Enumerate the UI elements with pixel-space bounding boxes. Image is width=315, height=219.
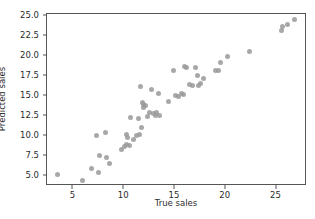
data-point: [157, 113, 162, 118]
y-axis-tick-mark: [43, 35, 47, 36]
x-axis-tick-mark: [72, 185, 73, 189]
data-points-layer: [47, 14, 305, 184]
x-axis-tick-mark: [123, 185, 124, 189]
data-point: [143, 103, 148, 108]
data-point: [193, 65, 198, 70]
y-axis-label: Predicted sales: [0, 67, 7, 131]
data-point: [198, 81, 203, 86]
data-point: [94, 133, 99, 138]
data-point: [201, 76, 206, 81]
y-axis-tick-label: 22.5: [0, 30, 39, 40]
data-point: [292, 17, 297, 22]
data-point: [107, 161, 112, 166]
x-axis-tick-mark: [173, 185, 174, 189]
data-point: [156, 91, 161, 96]
data-point: [103, 130, 108, 135]
data-point: [80, 178, 85, 183]
x-axis-tick-mark: [275, 185, 276, 189]
y-axis-tick-mark: [43, 175, 47, 176]
plot-area: [46, 13, 306, 185]
data-point: [285, 22, 290, 27]
data-point: [190, 83, 195, 88]
x-axis-label: True sales: [155, 198, 197, 208]
data-point: [136, 116, 141, 121]
y-axis-tick-label: 25.0: [0, 10, 39, 20]
x-axis-tick-label: 5: [70, 190, 75, 200]
x-axis-tick-mark: [224, 185, 225, 189]
data-point: [137, 132, 142, 137]
x-axis-tick-label: 10: [118, 190, 129, 200]
data-point: [139, 125, 144, 130]
scatter-plot-figure: 5.07.510.012.515.017.520.022.525.0 51015…: [0, 0, 315, 219]
y-axis-tick-label: 7.5: [0, 150, 39, 160]
x-axis-tick-label: 25: [270, 190, 281, 200]
x-axis-tick-label: 20: [219, 190, 230, 200]
data-point: [127, 143, 132, 148]
y-axis-tick-label: 20.0: [0, 50, 39, 60]
data-point: [128, 115, 133, 120]
data-point: [218, 60, 223, 65]
y-axis-tick-mark: [43, 15, 47, 16]
y-axis-tick-label: 5.0: [0, 170, 39, 180]
y-axis-tick-mark: [43, 115, 47, 116]
data-point: [96, 170, 101, 175]
y-axis-tick-mark: [43, 95, 47, 96]
y-axis-tick-mark: [43, 55, 47, 56]
data-point: [225, 54, 230, 59]
data-point: [97, 153, 102, 158]
y-axis-tick-mark: [43, 155, 47, 156]
data-point: [195, 73, 200, 78]
data-point: [181, 92, 186, 97]
y-axis-tick-mark: [43, 75, 47, 76]
data-point: [138, 84, 143, 89]
y-axis-tick-label: 10.0: [0, 130, 39, 140]
data-point: [89, 166, 94, 171]
data-point: [55, 172, 60, 177]
data-point: [166, 99, 171, 104]
data-point: [247, 49, 252, 54]
data-point: [171, 68, 176, 73]
data-point: [216, 68, 221, 73]
data-point: [149, 87, 154, 92]
y-axis-tick-mark: [43, 135, 47, 136]
data-point: [184, 65, 189, 70]
data-point: [104, 155, 109, 160]
data-point: [125, 135, 130, 140]
